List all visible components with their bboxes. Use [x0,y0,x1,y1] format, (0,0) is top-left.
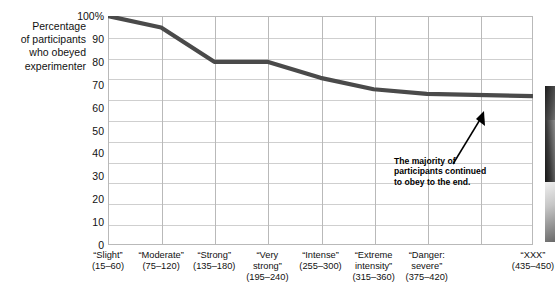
chart-annotation: The majority of participants continued t… [394,156,514,187]
x-axis-tick-label: “Danger:severe”(375–420) [390,250,464,282]
photo-band [545,120,555,190]
y-axis-tick-label: 90 [68,33,104,45]
y-axis-tick-label: 50 [68,125,104,137]
y-axis-tick-label: 70 [68,79,104,91]
y-axis-tick-label: 30 [68,170,104,182]
annotation-line-1: The majority of [394,156,514,166]
x-axis-tick-line: severe” [390,261,464,272]
x-axis-tick-label: “XXX”(435–450) [496,250,555,272]
annotation-line-3: to obey to the end. [394,177,514,187]
y-axis-tick-label: 20 [68,193,104,205]
y-axis-tick-label: 60 [68,102,104,114]
x-axis-tick-line: “XXX” [496,250,555,261]
x-axis-tick-line: (375–420) [390,272,464,283]
y-axis-tick-label: 100% [68,10,104,22]
y-axis-tick-label: 10 [68,216,104,228]
annotation-line-2: participants continued [394,166,514,176]
x-axis-tick-line: “Danger: [390,250,464,261]
y-axis-tick-label: 40 [68,147,104,159]
chart-figure: Percentage of participants who obeyed ex… [0,0,555,289]
x-axis-tick-line: (435–450) [496,261,555,272]
x-axis-tick-line: (195–240) [230,272,304,283]
y-axis-tick-label: 80 [68,56,104,68]
page-edge-photo [545,86,555,242]
photo-band [545,182,555,242]
